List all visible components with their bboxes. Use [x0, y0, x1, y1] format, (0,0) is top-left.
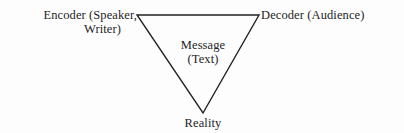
encoder-label: Encoder (Speaker, Writer)	[0, 8, 137, 36]
message-label: Message (Text)	[165, 38, 241, 66]
decoder-label: Decoder (Audience)	[261, 8, 364, 22]
message-label-line2: (Text)	[165, 52, 241, 66]
encoder-label-line2: Writer)	[0, 22, 137, 36]
reality-label: Reality	[170, 116, 236, 130]
encoder-label-line1: Encoder (Speaker,	[43, 8, 137, 22]
message-label-line1: Message	[165, 38, 241, 52]
communication-triangle-diagram: Encoder (Speaker, Writer) Decoder (Audie…	[0, 0, 404, 133]
